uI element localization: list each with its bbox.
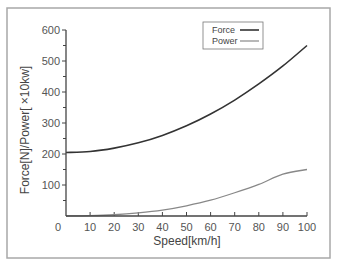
x-tick-label: 40 xyxy=(156,221,168,233)
x-tick-label: 10 xyxy=(84,221,96,233)
y-tick-label: 500 xyxy=(42,55,60,67)
y-tick-label: 100 xyxy=(42,179,60,191)
y-tick-label: 300 xyxy=(42,117,60,129)
x-tick-label: 100 xyxy=(298,221,316,233)
x-tick-label: 70 xyxy=(229,221,241,233)
x-axis-label: Speed[km/h] xyxy=(153,234,220,248)
legend-label-power: Power xyxy=(212,36,238,46)
x-tick-label: 60 xyxy=(204,221,216,233)
x-tick-label: 30 xyxy=(132,221,144,233)
y-tick-label: 600 xyxy=(42,24,60,36)
legend-label-force: Force xyxy=(212,25,235,35)
line-chart: Force[N]/Power[ ×10kw] Speed[km/h] 10020… xyxy=(0,0,338,267)
legend: Force Power xyxy=(203,22,263,49)
y-tick-label: 200 xyxy=(42,148,60,160)
x-tick-label: 20 xyxy=(108,221,120,233)
y-axis-label-group: Force[N]/Power[ ×10kw] xyxy=(18,66,32,194)
y-tick-label: 400 xyxy=(42,86,60,98)
origin-label: 0 xyxy=(55,221,61,233)
x-tick-label: 50 xyxy=(180,221,192,233)
x-tick-label: 90 xyxy=(277,221,289,233)
x-tick-label: 80 xyxy=(253,221,265,233)
y-axis-label: Force[N]/Power[ ×10kw] xyxy=(18,66,32,194)
